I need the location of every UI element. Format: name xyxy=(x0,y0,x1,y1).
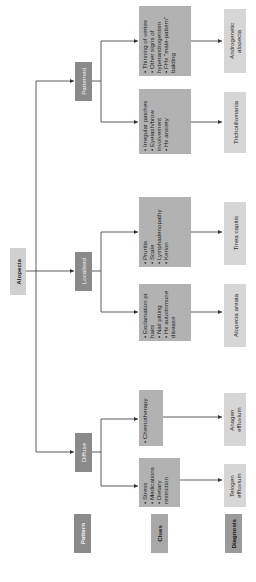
clue-item: Hx autoimmune disease xyxy=(162,287,176,338)
clue-item: Other signs of hyperandrogenism xyxy=(148,9,162,73)
clue-list: Exclamation pt hairs Nail pitting Hx aut… xyxy=(141,287,176,338)
legend-clues: Clues xyxy=(151,514,168,553)
clue-item: Hx anxiety xyxy=(162,92,169,151)
diagnosis-node-androgenetic-alopecia: Androgenetic alopecia xyxy=(224,9,246,73)
clue-item: Lymphadenopathy xyxy=(155,200,162,264)
clue-item: Thinning of vertex xyxy=(141,9,148,73)
clue-item: Irregular patches xyxy=(141,92,148,151)
pattern-label: Localised xyxy=(80,258,87,284)
clue-item: FHx "male-pattern" balding xyxy=(162,9,176,73)
root-label: Alopecia xyxy=(15,259,22,285)
clue-node-trichotillomania: Irregular patches Eyelash/brow involveme… xyxy=(139,89,191,154)
root-node-alopecia: Alopecia xyxy=(10,248,26,295)
connector-lines xyxy=(0,0,256,582)
clue-list: Chemotherapy xyxy=(141,393,148,443)
clue-list: Stress Medications Dietary restriction xyxy=(141,461,169,504)
diagnosis-node-alopecia-areata: Alopecia areata xyxy=(224,284,246,347)
pattern-label: Diffuse xyxy=(80,443,87,462)
diagnosis-node-tinea-capitis: Tinea capitis xyxy=(224,202,246,265)
clue-list: Irregular patches Eyelash/brow involveme… xyxy=(141,92,169,151)
pattern-node-localised: Localised xyxy=(75,252,92,291)
clue-node-alopecia-areata: Exclamation pt hairs Nail pitting Hx aut… xyxy=(139,284,191,341)
pattern-node-patterned: Patterned xyxy=(75,62,92,101)
clue-item: Eyelash/brow involvement xyxy=(148,92,162,151)
legend-pattern: Pattern xyxy=(74,514,91,553)
clue-node-anagen: Chemotherapy xyxy=(139,390,163,446)
clue-node-telogen: Stress Medications Dietary restriction xyxy=(139,458,180,507)
clue-item: Chemotherapy xyxy=(141,393,148,443)
clue-node-tinea: Pruritis Scale Lymphadenopathy Kerion xyxy=(139,197,191,267)
pattern-label: Patterned xyxy=(80,68,87,95)
clue-item: Medications xyxy=(148,461,155,504)
clue-list: Pruritis Scale Lymphadenopathy Kerion xyxy=(141,200,169,264)
diagnosis-node-trichotillomania: Trichotillomania xyxy=(224,92,246,153)
clue-item: Pruritis xyxy=(141,200,148,264)
clue-list: Thinning of vertex Other signs of hypera… xyxy=(141,9,176,73)
clue-item: Stress xyxy=(141,461,148,504)
clue-item: Nail pitting xyxy=(155,287,162,338)
clue-item: Exclamation pt hairs xyxy=(141,287,155,338)
clue-item: Scale xyxy=(148,200,155,264)
clue-node-androgenetic: Thinning of vertex Other signs of hypera… xyxy=(139,6,191,76)
diagnosis-node-anagen-effluvium: Anagen effluvium xyxy=(224,393,246,446)
clue-item: Kerion xyxy=(162,200,169,264)
clue-item: Dietary restriction xyxy=(155,461,169,504)
diagnosis-node-telogen-effluvium: Telogen effluvium xyxy=(224,464,246,507)
pattern-node-diffuse: Diffuse xyxy=(75,433,92,472)
legend-diagnosis: Diagnosis xyxy=(225,514,242,553)
